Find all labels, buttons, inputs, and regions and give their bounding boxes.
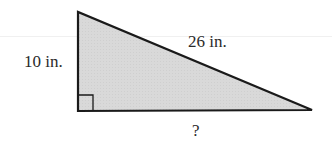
triangle-shape [78,12,312,111]
hypotenuse-label: 26 in. [188,33,227,50]
triangle-figure [0,0,332,142]
right-triangle-diagram: 10 in. 26 in. ? [0,0,332,142]
horizontal-leg-label: ? [192,122,200,139]
vertical-leg-label: 10 in. [24,53,63,70]
